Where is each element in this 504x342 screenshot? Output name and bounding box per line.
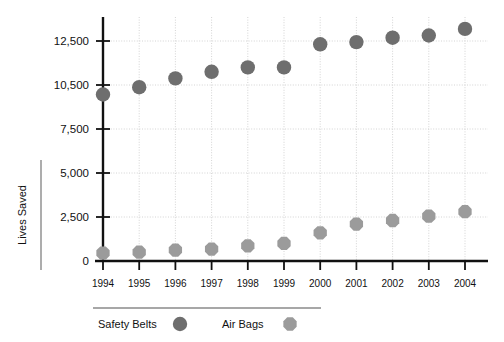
data-point-marker [204, 65, 218, 79]
y-axis-title: Lives Saved [16, 185, 28, 245]
data-point-marker [277, 60, 291, 74]
legend-marker-circle[interactable] [173, 317, 187, 331]
data-point-marker [314, 226, 327, 239]
data-point-marker [458, 22, 472, 36]
data-point-marker [313, 37, 327, 51]
data-point-marker [132, 80, 146, 94]
lives-saved-scatter-chart: 02,5005,0007,50010,50012,500 19941995199… [0, 0, 504, 342]
data-point-marker [350, 217, 363, 230]
data-point-marker [241, 239, 254, 252]
data-point-marker [386, 214, 399, 227]
data-point-marker [205, 242, 218, 255]
data-point-marker [96, 246, 109, 259]
x-axis-tick-label: 1997 [200, 278, 223, 289]
x-axis-tick-label: 1995 [128, 278, 151, 289]
x-axis-tick-label: 2003 [418, 278, 441, 289]
y-axis-tick-label: 7,500 [60, 123, 89, 135]
y-axis-tick-label: 10,500 [54, 79, 89, 91]
x-axis-tick-label: 2004 [454, 278, 477, 289]
y-axis-tick-label: 5,000 [60, 167, 89, 179]
data-point-marker [385, 31, 399, 45]
x-axis-tick-label: 2000 [309, 278, 332, 289]
chart-container: 02,5005,0007,50010,50012,500 19941995199… [0, 0, 504, 342]
data-point-marker [458, 205, 471, 218]
legend-label[interactable]: Air Bags [222, 318, 264, 330]
data-point-marker [168, 71, 182, 85]
legend-marker-octagon[interactable] [283, 317, 296, 330]
data-point-marker [422, 209, 435, 222]
y-axis-tick-label: 12,500 [54, 35, 89, 47]
x-axis-tick-label: 2001 [345, 278, 368, 289]
x-axis-tick-labels: 1994199519961997199819992000200120022003… [92, 278, 477, 289]
data-point-marker [96, 87, 110, 101]
y-axis-tick-label: 0 [83, 255, 89, 267]
x-axis-tick-label: 1998 [237, 278, 260, 289]
x-axis-tick-label: 1994 [92, 278, 115, 289]
data-point-marker [277, 237, 290, 250]
x-axis-tick-label: 1996 [164, 278, 187, 289]
x-axis-tick-label: 2002 [381, 278, 404, 289]
data-point-marker [349, 35, 363, 49]
data-point-marker [169, 243, 182, 256]
data-point-marker [133, 246, 146, 259]
legend-label[interactable]: Safety Belts [98, 318, 157, 330]
x-axis-tick-label: 1999 [273, 278, 296, 289]
data-point-marker [241, 60, 255, 74]
data-point-marker [422, 28, 436, 42]
y-axis-tick-label: 2,500 [60, 211, 89, 223]
